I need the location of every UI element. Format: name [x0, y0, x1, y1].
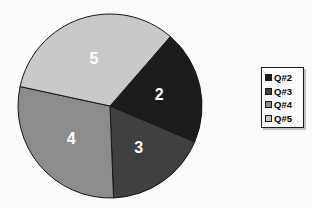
legend-item-q3: Q#3 — [265, 85, 301, 98]
legend-swatch-q3-icon — [265, 88, 272, 95]
legend-box: Q#2 Q#3 Q#4 Q#5 — [261, 67, 304, 128]
legend-item-q2: Q#2 — [265, 71, 301, 84]
legend-swatch-q5-icon — [265, 115, 272, 122]
pie-slice-label-2: 2 — [155, 86, 164, 103]
legend-label-q3: Q#3 — [274, 86, 292, 97]
pie-slice-label-4: 4 — [67, 130, 76, 147]
legend-swatch-q4-icon — [265, 101, 272, 108]
legend-label-q5: Q#5 — [274, 113, 292, 124]
legend-item-q4: Q#4 — [265, 98, 301, 111]
pie-slice-label-5: 5 — [90, 50, 99, 67]
legend-label-q4: Q#4 — [274, 99, 292, 110]
legend-label-q2: Q#2 — [274, 72, 292, 83]
pie-slice-label-3: 3 — [134, 139, 143, 156]
chart-canvas: 2345 Q#2 Q#3 Q#4 Q#5 — [0, 0, 312, 208]
legend-item-q5: Q#5 — [265, 112, 301, 125]
legend-swatch-q2-icon — [265, 74, 272, 81]
